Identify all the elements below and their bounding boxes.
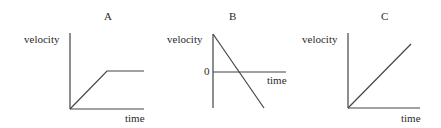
graph-a-plot [70,33,144,109]
graph-b-plot [213,34,286,108]
graph-a-x-label: time [125,112,145,124]
graph-c-curve [348,44,411,108]
graphs-canvas [0,0,441,128]
graph-c-y-label: velocity [302,33,337,45]
graph-c-plot [348,33,420,108]
graph-a-y-label: velocity [24,33,59,45]
graph-b-title: B [229,10,236,22]
graph-b-curve [213,34,264,108]
graph-a-curve [70,71,144,109]
graph-b-zero-label: 0 [204,65,210,77]
graph-a-title: A [104,10,112,22]
graph-c-title: C [381,10,388,22]
graph-b-x-label: time [267,74,287,86]
graph-c-x-label: time [401,112,421,124]
graph-b-y-label: velocity [167,33,202,45]
